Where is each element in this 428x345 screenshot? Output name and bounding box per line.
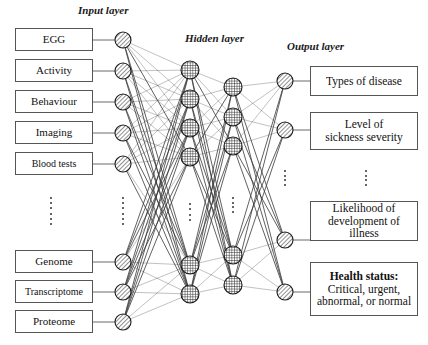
network-node bbox=[277, 284, 293, 300]
hidden-layer-title: Hidden layer bbox=[185, 32, 244, 44]
network-node bbox=[181, 256, 199, 274]
network-node bbox=[224, 276, 242, 294]
neural-network-figure: Input layer Hidden layer Output layer EG… bbox=[0, 0, 428, 345]
output-label-line: Level of bbox=[345, 118, 384, 130]
ellipsis-input-nodes bbox=[121, 197, 125, 225]
network-edges bbox=[123, 40, 285, 322]
input-layer-title: Input layer bbox=[78, 4, 128, 16]
edge bbox=[123, 40, 190, 99]
edge bbox=[123, 71, 190, 99]
output-label-line: Types of disease bbox=[326, 75, 402, 87]
edge bbox=[123, 164, 190, 265]
network-node bbox=[115, 63, 131, 79]
output-label-box: Likelihood ofdevelopment of illness bbox=[310, 201, 418, 241]
input-label-box: Imaging bbox=[15, 121, 93, 144]
network-node bbox=[181, 90, 199, 108]
network-node bbox=[115, 284, 131, 300]
output-label-line: development of illness bbox=[328, 215, 400, 240]
input-label-box: Blood tests bbox=[15, 152, 93, 175]
network-nodes bbox=[115, 32, 293, 330]
network-node bbox=[277, 122, 293, 138]
network-node bbox=[181, 148, 199, 166]
network-node bbox=[277, 73, 293, 89]
network-node bbox=[181, 61, 199, 79]
output-label-line: abnormal, or normal bbox=[317, 295, 411, 307]
output-label-line: Health status: bbox=[330, 270, 399, 282]
edge bbox=[123, 40, 190, 70]
input-label-box: EGG bbox=[15, 28, 93, 51]
input-label-box: Activity bbox=[15, 59, 93, 82]
edge bbox=[233, 117, 285, 240]
output-label-line: Critical, urgent, bbox=[328, 283, 400, 295]
output-label-box: Level ofsickness severity bbox=[310, 112, 418, 150]
edge bbox=[123, 70, 190, 71]
network-node bbox=[115, 94, 131, 110]
output-label-box: Health status:Critical, urgent,abnormal,… bbox=[310, 262, 418, 316]
network-node bbox=[115, 254, 131, 270]
network-node bbox=[115, 314, 131, 330]
network-node bbox=[181, 119, 199, 137]
ellipsis-output-nodes bbox=[283, 170, 287, 186]
input-label-box: Transcriptome bbox=[15, 280, 93, 303]
network-node bbox=[224, 108, 242, 126]
network-node bbox=[224, 246, 242, 264]
network-node bbox=[224, 137, 242, 155]
network-node bbox=[115, 156, 131, 172]
network-node bbox=[224, 78, 242, 96]
input-label-box: Proteome bbox=[15, 310, 93, 333]
ellipsis-hidden2 bbox=[231, 197, 235, 213]
ellipsis-hidden1 bbox=[188, 203, 192, 221]
edge bbox=[123, 71, 190, 265]
edge bbox=[123, 102, 190, 294]
edge bbox=[123, 70, 190, 322]
ellipsis-output-labels bbox=[364, 170, 368, 186]
input-label-box: Behaviour bbox=[15, 90, 93, 113]
output-label-line: Likelihood of bbox=[333, 202, 396, 214]
network-node bbox=[115, 125, 131, 141]
output-label-line: sickness severity bbox=[325, 131, 403, 143]
network-node bbox=[277, 232, 293, 248]
network-node bbox=[115, 32, 131, 48]
network-node bbox=[181, 285, 199, 303]
input-label-box: Genome bbox=[15, 250, 93, 273]
output-layer-title: Output layer bbox=[287, 40, 344, 52]
ellipsis-input-labels bbox=[49, 197, 53, 225]
output-label-box: Types of disease bbox=[310, 66, 418, 96]
